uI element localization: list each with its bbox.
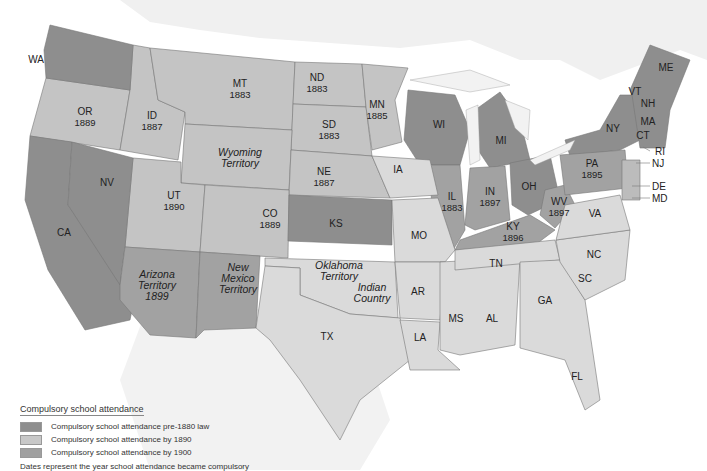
state-label-nh: NH	[641, 98, 655, 109]
state-label-ms: MS	[449, 313, 464, 324]
state-label-il: IL1883	[441, 191, 462, 213]
state-label-nv: NV	[100, 177, 114, 188]
state-label-ga: GA	[538, 295, 552, 306]
state-label-mo: MO	[411, 230, 427, 241]
state-label-ct: CT	[636, 130, 649, 141]
state-label-nj: NJ	[652, 158, 664, 169]
state-label-nd: ND1883	[306, 72, 327, 94]
state-label-al: AL	[486, 313, 498, 324]
state-label-vt: VT	[629, 86, 642, 97]
state-label-sd: SD1883	[318, 119, 339, 141]
state-label-id: ID1887	[141, 110, 162, 132]
state-label-de: DE	[652, 181, 666, 192]
legend: Compulsory school attendance Compulsory …	[20, 404, 249, 471]
state-label-or: OR1889	[74, 106, 95, 128]
state-label-ne: NE1887	[313, 166, 334, 188]
state-label-nc: NC	[587, 249, 601, 260]
legend-swatch-pre1880	[20, 422, 42, 432]
legend-note: Dates represent the year school attendan…	[20, 462, 249, 471]
state-label-wi: WI	[433, 119, 445, 130]
state-label-ar: AR	[411, 286, 425, 297]
legend-label: Compulsory school attendance by 1890	[51, 435, 192, 444]
state-label-la: LA	[414, 332, 426, 343]
state-label-ut: UT1890	[163, 190, 184, 212]
state-label-ks: KS	[329, 218, 342, 229]
state-label-in: IN1897	[479, 186, 500, 208]
state-label-wy: WyomingTerritory	[218, 147, 262, 169]
state-label-tx: TX	[321, 331, 334, 342]
state-label-ny: NY	[606, 123, 620, 134]
state-label-oh: OH	[522, 181, 537, 192]
state-label-wv: WV1897	[548, 196, 569, 218]
state-label-nm: NewMexicoTerritory	[219, 262, 257, 295]
state-label-co: CO1889	[259, 208, 280, 230]
state-label-va: VA	[589, 208, 602, 219]
state-label-sc: SC	[578, 273, 592, 284]
state-label-ky: KY1896	[502, 221, 523, 243]
legend-swatch-by1900	[20, 448, 42, 458]
state-label-mn: MN1885	[366, 99, 387, 121]
state-label-md: MD	[652, 193, 668, 204]
state-label-pa: PA1895	[581, 158, 602, 180]
state-label-ic: IndianCountry	[354, 282, 391, 304]
state-label-mi: MI	[495, 135, 506, 146]
legend-label: Compulsory school attendance pre-1880 la…	[51, 422, 209, 431]
legend-item-pre1880: Compulsory school attendance pre-1880 la…	[20, 420, 249, 433]
legend-item-by1890: Compulsory school attendance by 1890	[20, 433, 249, 446]
legend-label: Compulsory school attendance by 1900	[51, 448, 192, 457]
state-label-me: ME	[659, 62, 674, 73]
state-label-ia: IA	[393, 164, 402, 175]
state-label-ma: MA	[641, 116, 656, 127]
state-label-wa: WA	[28, 54, 44, 65]
legend-item-by1900: Compulsory school attendance by 1900	[20, 446, 249, 459]
state-label-ca: CA	[57, 227, 71, 238]
state-label-fl: FL	[571, 371, 583, 382]
state-label-az: ArizonaTerritory1899	[138, 269, 176, 302]
state-label-mt: MT1883	[229, 78, 250, 100]
state-label-ok: OklahomaTerritory	[315, 260, 363, 282]
state-label-tn: TN	[489, 258, 502, 269]
legend-title: Compulsory school attendance	[20, 404, 144, 416]
legend-swatch-by1890	[20, 435, 42, 445]
state-label-ri: RI	[655, 146, 665, 157]
